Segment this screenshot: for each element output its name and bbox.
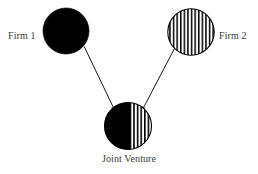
node-label-firm2: Firm 2 <box>219 31 247 41</box>
edge-firm2-to-joint-venture <box>142 48 175 111</box>
node-joint-venture-fill <box>100 100 153 152</box>
node-firm1-circle <box>43 8 89 54</box>
diagram-canvas <box>0 0 258 174</box>
edge-firm1-to-joint-venture <box>84 47 115 111</box>
node-label-firm1: Firm 1 <box>8 31 36 41</box>
joint-venture-diagram: Firm 1 Firm 2 Joint Venture <box>0 0 258 174</box>
node-firm2-circle <box>168 9 214 55</box>
node-label-joint-venture: Joint Venture <box>0 154 258 164</box>
